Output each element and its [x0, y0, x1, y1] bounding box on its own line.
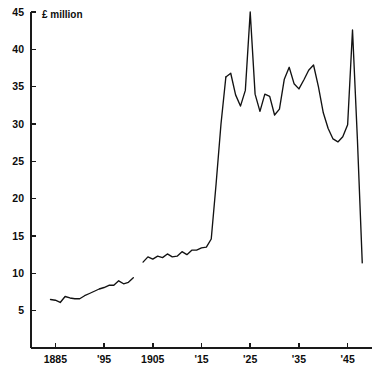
- y-tick-label-35: 35: [12, 80, 24, 92]
- y-tick-label-5: 5: [18, 304, 24, 316]
- y-tick-label-45: 45: [12, 6, 24, 18]
- y-tick-label-40: 40: [12, 43, 24, 55]
- series-line-segment-3: [226, 12, 362, 263]
- y-tick-label-30: 30: [12, 118, 24, 130]
- series-line-segment-2: [143, 77, 226, 262]
- y-axis-tick-labels: 51015202530354045: [12, 6, 24, 317]
- x-tick-label-1905: 1905: [141, 353, 165, 365]
- series-line-segment-1: [50, 278, 133, 303]
- x-tick-label-1925: '25: [243, 353, 257, 365]
- y-tick-label-10: 10: [12, 267, 24, 279]
- x-tick-label-1935: '35: [292, 353, 306, 365]
- y-tick-label-25: 25: [12, 155, 24, 167]
- y-tick-label-20: 20: [12, 192, 24, 204]
- chart-container: 51015202530354045 1885'951905'15'25'35'4…: [0, 0, 374, 374]
- x-axis-tick-labels: 1885'951905'15'25'35'45: [44, 353, 355, 365]
- x-tick-label-1895: '95: [97, 353, 111, 365]
- data-series-group: [50, 12, 362, 302]
- y-axis-unit-label: £ million: [42, 9, 83, 20]
- x-tick-label-1885: 1885: [44, 353, 68, 365]
- y-tick-label-15: 15: [12, 230, 24, 242]
- line-chart-svg: 51015202530354045 1885'951905'15'25'35'4…: [0, 0, 374, 374]
- x-tick-label-1915: '15: [194, 353, 208, 365]
- x-tick-label-1945: '45: [341, 353, 355, 365]
